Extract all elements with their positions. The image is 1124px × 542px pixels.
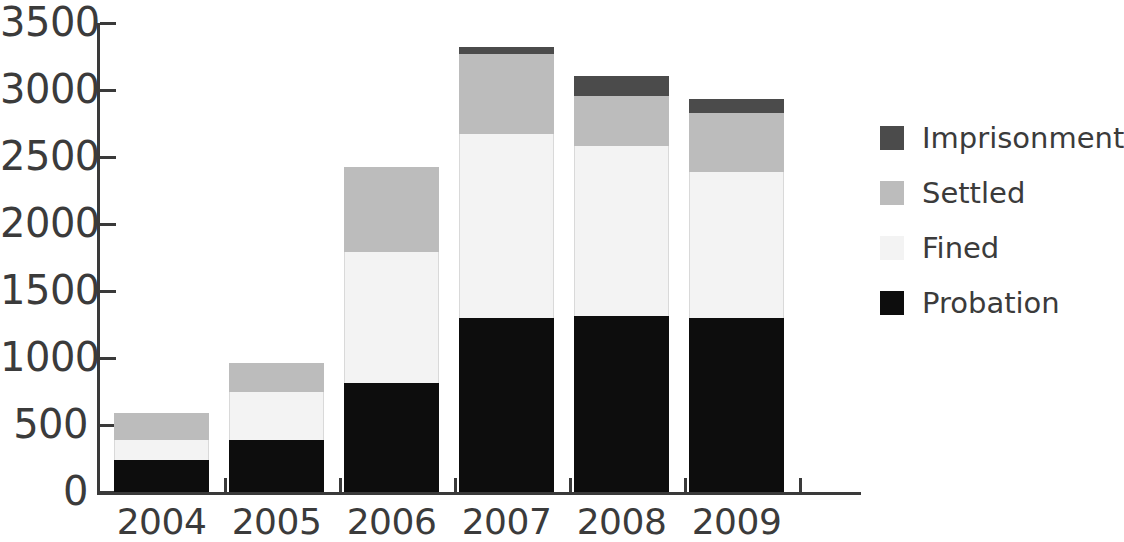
bar-segment-settled-2007	[459, 54, 554, 134]
bar-2004	[114, 413, 209, 492]
bar-segment-probation-2008	[574, 316, 669, 492]
bar-2008	[574, 76, 669, 492]
bar-segment-settled-2005	[229, 363, 324, 391]
bar-segment-settled-2006	[344, 167, 439, 252]
bar-2005	[229, 363, 324, 492]
bar-segment-probation-2007	[459, 318, 554, 492]
legend-swatch-settled	[880, 181, 904, 205]
legend-swatch-probation	[880, 291, 904, 315]
bar-segment-probation-2009	[689, 318, 784, 492]
legend-label-fined: Fined	[922, 230, 999, 266]
bar-segment-imprisonment-2007	[459, 47, 554, 54]
bar-segment-imprisonment-2009	[689, 99, 784, 112]
bar-segment-settled-2009	[689, 113, 784, 172]
bar-segment-probation-2004	[114, 460, 209, 492]
bar-2007	[459, 47, 554, 492]
bar-segment-fined-2006	[344, 252, 439, 383]
legend-swatch-fined	[880, 236, 904, 260]
bar-segment-fined-2005	[229, 392, 324, 440]
bar-2009	[689, 99, 784, 492]
legend-swatch-imprisonment	[880, 126, 904, 150]
bar-segment-fined-2009	[689, 172, 784, 318]
bar-segment-probation-2006	[344, 383, 439, 492]
bar-segment-settled-2004	[114, 413, 209, 440]
bar-segment-probation-2005	[229, 440, 324, 492]
legend-label-settled: Settled	[922, 175, 1025, 211]
bar-segment-fined-2007	[459, 134, 554, 318]
bar-segment-imprisonment-2008	[574, 76, 669, 96]
legend-label-probation: Probation	[922, 285, 1060, 321]
bar-segment-settled-2008	[574, 96, 669, 146]
bar-2006	[344, 167, 439, 492]
bar-segment-fined-2008	[574, 146, 669, 316]
bar-segment-fined-2004	[114, 440, 209, 460]
legend-label-imprisonment: Imprisonment	[922, 120, 1124, 156]
